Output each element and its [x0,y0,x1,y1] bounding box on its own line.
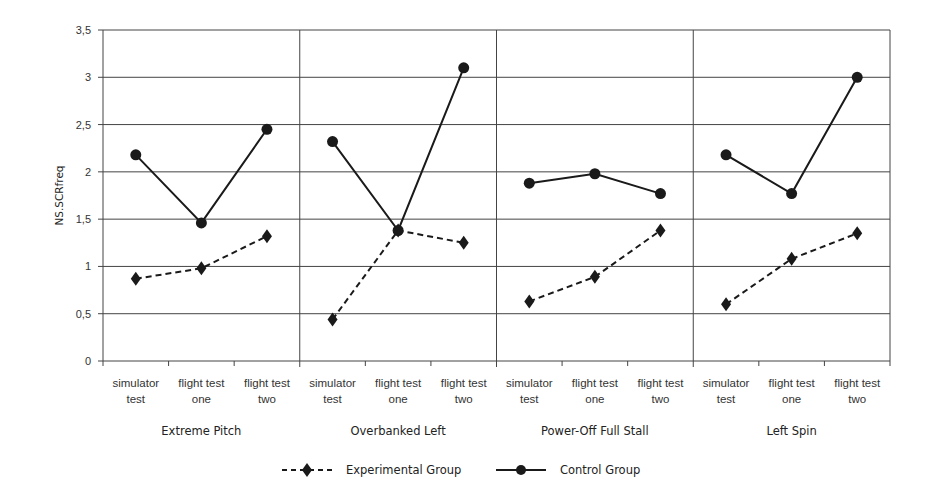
control-line [726,77,857,193]
x-category-label: flight test [834,377,881,389]
x-group-label: Power-Off Full Stall [541,424,649,438]
x-category-label: simulator [703,377,750,389]
legend-label: Control Group [560,463,640,477]
diamond-marker-icon [787,252,797,266]
diamond-marker-icon [196,261,206,275]
y-tick-label: 3 [85,71,91,83]
circle-marker-icon [721,149,732,160]
diamond-marker-icon [852,226,862,240]
y-tick-label: 2,5 [76,119,91,131]
y-tick-label: 1,5 [76,213,91,225]
circle-marker-icon [130,149,141,160]
x-category-label: one [782,393,801,405]
circle-marker-icon [852,72,863,83]
y-tick-label: 2 [85,166,91,178]
x-category-label: two [848,393,866,405]
x-category-label: test [717,393,736,405]
experimental-line [333,230,464,319]
diamond-marker-icon [328,312,338,326]
y-tick-label: 0 [85,355,91,367]
y-tick-label: 3,5 [76,24,91,36]
circle-marker-icon [589,168,600,179]
legend-circle-icon [516,465,526,475]
line-chart: 00,511,522,533,5NS.SCRfreqsimulatortestf… [0,0,932,500]
circle-marker-icon [327,136,338,147]
diamond-marker-icon [131,272,141,286]
x-category-label: flight test [375,377,422,389]
x-category-label: simulator [309,377,356,389]
x-category-label: one [192,393,211,405]
y-axis-label: NS.SCRfreq [53,165,65,225]
diamond-marker-icon [262,229,272,243]
x-category-label: one [389,393,408,405]
x-category-label: two [258,393,276,405]
x-category-label: flight test [769,377,816,389]
diamond-marker-icon [721,297,731,311]
y-tick-label: 1 [85,260,91,272]
x-category-label: one [585,393,604,405]
y-tick-label: 0,5 [76,308,91,320]
x-category-label: simulator [506,377,553,389]
circle-marker-icon [655,188,666,199]
x-category-label: two [652,393,670,405]
circle-marker-icon [786,188,797,199]
x-category-label: flight test [572,377,619,389]
x-category-label: simulator [112,377,159,389]
x-category-label: flight test [178,377,225,389]
circle-marker-icon [524,178,535,189]
diamond-marker-icon [524,294,534,308]
control-line [136,129,267,223]
diamond-marker-icon [590,270,600,284]
circle-marker-icon [261,124,272,135]
legend-diamond-icon [302,463,312,477]
experimental-line [726,233,857,304]
x-category-label: flight test [637,377,684,389]
x-category-label: test [127,393,146,405]
x-group-label: Left Spin [766,424,816,438]
control-line [333,68,464,231]
x-category-label: test [520,393,539,405]
x-category-label: flight test [244,377,291,389]
x-category-label: two [455,393,473,405]
diamond-marker-icon [459,236,469,250]
diamond-marker-icon [655,223,665,237]
x-category-label: flight test [441,377,488,389]
x-group-label: Overbanked Left [351,424,447,438]
circle-marker-icon [196,217,207,228]
legend-label: Experimental Group [346,463,461,477]
circle-marker-icon [458,62,469,73]
x-group-label: Extreme Pitch [161,424,241,438]
circle-marker-icon [393,225,404,236]
x-category-label: test [323,393,342,405]
